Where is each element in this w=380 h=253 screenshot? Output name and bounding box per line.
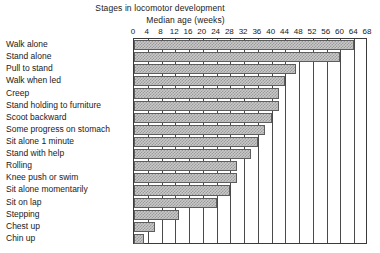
x-tick-4: 4 bbox=[145, 27, 149, 37]
bar-sit-on-lap bbox=[134, 198, 217, 208]
bar-row bbox=[134, 112, 366, 124]
bar-series bbox=[134, 39, 366, 243]
bar-row bbox=[134, 221, 366, 233]
category-label: Sit alone momentarily bbox=[6, 185, 129, 194]
bar-row bbox=[134, 124, 366, 136]
x-tick-40: 40 bbox=[266, 27, 275, 37]
x-tick-52: 52 bbox=[307, 27, 316, 37]
x-tick-12: 12 bbox=[170, 27, 179, 37]
bar-row bbox=[134, 209, 366, 221]
bar-row bbox=[134, 184, 366, 196]
locomotor-development-bar-chart: Stages in locomotor development Median a… bbox=[0, 0, 380, 253]
bar-row bbox=[134, 136, 366, 148]
x-tick-24: 24 bbox=[211, 27, 220, 37]
x-tick-60: 60 bbox=[335, 27, 344, 37]
bar-walk-alone bbox=[134, 40, 354, 50]
category-label: Sit alone 1 minute bbox=[6, 137, 129, 146]
category-label: Scoot backward bbox=[6, 113, 129, 122]
bar-row bbox=[134, 39, 366, 51]
x-axis-tick-labels: 048121620242832364044485256606468 bbox=[133, 27, 367, 37]
bar-rolling bbox=[134, 161, 237, 171]
bar-row bbox=[134, 172, 366, 184]
category-labels: Walk aloneStand alonePull to standWalk w… bbox=[0, 38, 131, 244]
bar-some-progress-on-stomach bbox=[134, 125, 265, 135]
category-label: Stand alone bbox=[6, 52, 129, 61]
category-label: Pull to stand bbox=[6, 64, 129, 73]
x-tick-20: 20 bbox=[197, 27, 206, 37]
bar-row bbox=[134, 148, 366, 160]
category-label: Sit on lap bbox=[6, 198, 129, 207]
bar-pull-to-stand bbox=[134, 64, 296, 74]
bar-row bbox=[134, 160, 366, 172]
x-tick-8: 8 bbox=[158, 27, 162, 37]
category-label: Stepping bbox=[6, 210, 129, 219]
x-tick-32: 32 bbox=[239, 27, 248, 37]
x-axis-title: Median age (weeks) bbox=[0, 15, 371, 25]
bar-knee-push-or-swim bbox=[134, 173, 237, 183]
bar-row bbox=[134, 75, 366, 87]
chart-title: Stages in locomotor development bbox=[0, 3, 320, 13]
category-label: Creep bbox=[6, 89, 129, 98]
x-tick-28: 28 bbox=[225, 27, 234, 37]
bar-row bbox=[134, 197, 366, 209]
plot-area bbox=[133, 38, 367, 244]
category-label: Chin up bbox=[6, 234, 129, 243]
bar-stand-holding-to-furniture bbox=[134, 101, 279, 111]
bar-sit-alone-momentarily bbox=[134, 185, 230, 195]
x-tick-68: 68 bbox=[363, 27, 372, 37]
x-tick-56: 56 bbox=[321, 27, 330, 37]
x-tick-44: 44 bbox=[280, 27, 289, 37]
bar-chest-up bbox=[134, 222, 155, 232]
bar-row bbox=[134, 87, 366, 99]
bar-chin-up bbox=[134, 234, 144, 244]
x-tick-36: 36 bbox=[252, 27, 261, 37]
x-tick-64: 64 bbox=[349, 27, 358, 37]
category-label: Stand with help bbox=[6, 149, 129, 158]
category-label: Walk when led bbox=[6, 76, 129, 85]
bar-stand-with-help bbox=[134, 149, 251, 159]
bar-stepping bbox=[134, 210, 179, 220]
bar-stand-alone bbox=[134, 52, 340, 62]
category-label: Some progress on stomach bbox=[6, 125, 129, 134]
x-tick-0: 0 bbox=[131, 27, 135, 37]
bar-sit-alone-1-minute bbox=[134, 137, 258, 147]
category-label: Knee push or swim bbox=[6, 173, 129, 182]
bar-row bbox=[134, 51, 366, 63]
category-label: Walk alone bbox=[6, 40, 129, 49]
x-tick-48: 48 bbox=[294, 27, 303, 37]
bar-row bbox=[134, 233, 366, 245]
bar-scoot-backward bbox=[134, 113, 272, 123]
bar-creep bbox=[134, 88, 279, 98]
category-label: Stand holding to furniture bbox=[6, 101, 129, 110]
bar-row bbox=[134, 63, 366, 75]
bar-walk-when-led bbox=[134, 76, 285, 86]
x-tick-16: 16 bbox=[184, 27, 193, 37]
bar-row bbox=[134, 100, 366, 112]
category-label: Rolling bbox=[6, 161, 129, 170]
category-label: Chest up bbox=[6, 222, 129, 231]
